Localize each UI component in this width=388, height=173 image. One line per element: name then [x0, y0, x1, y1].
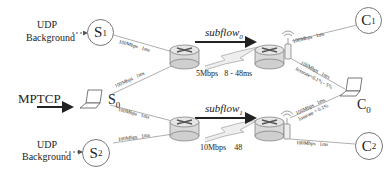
network-topology-diagram: S1 S2 C1 C2 S0 C0 UDP Background UDP Bac…: [0, 0, 388, 173]
subflow-text: subflow: [205, 102, 239, 114]
laptop-icon-c0: [340, 78, 362, 96]
node-subscript: 1: [102, 28, 107, 38]
c0-label: C0: [357, 98, 371, 115]
bottleneck-link-1: [205, 120, 258, 142]
udp-top-label: UDP: [37, 20, 57, 30]
subflow0-label: subflow0: [205, 27, 243, 41]
node-label: C: [357, 97, 366, 112]
router-icon-r1: [170, 45, 199, 69]
subflow-text: subflow: [205, 26, 239, 38]
bottleneck-link-0: [205, 47, 258, 70]
node-subscript: 0: [366, 105, 371, 115]
node-label: S: [94, 24, 102, 41]
router-icon-r3: [170, 117, 199, 141]
server-node-s1: S1: [87, 19, 114, 46]
udp-bottom-background-label: Background: [22, 152, 71, 162]
client-node-c2: C2: [355, 132, 383, 160]
client-node-c1: C1: [355, 7, 382, 34]
udp-top-background-label: Background: [26, 33, 75, 43]
node-label: C: [361, 12, 371, 29]
subflow1-label: subflow1: [205, 103, 243, 117]
subflow-subscript: 1: [239, 109, 243, 117]
bottleneck1-label: 10Mbps 48: [200, 144, 242, 152]
node-label: S: [108, 92, 116, 107]
mptcp-label: MPTCP: [18, 92, 61, 105]
router-icon-r2: [255, 45, 284, 69]
node-label: S: [90, 145, 98, 162]
bottleneck0-label: 5Mbps 8 - 48ms: [196, 70, 252, 78]
node-subscript: 2: [372, 141, 377, 151]
laptop-icon-s0: [80, 90, 102, 108]
link-s0-r1: [110, 62, 180, 95]
server-node-s2: S2: [82, 139, 110, 167]
router-icon-r4: [255, 117, 284, 141]
node-subscript: 1: [371, 16, 376, 26]
node-subscript: 2: [98, 148, 103, 158]
udp-bottom-label: UDP: [37, 140, 57, 150]
subflow-subscript: 0: [239, 33, 243, 41]
node-label: C: [362, 138, 372, 155]
